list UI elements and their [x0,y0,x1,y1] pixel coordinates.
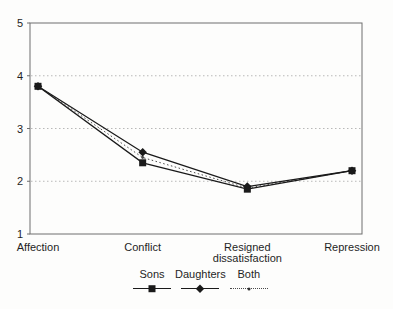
legend-item-both: Both [229,269,269,294]
y-tick-label: 2 [17,175,23,187]
legend-item-sons: Sons [132,269,172,294]
x-tick-label: Conflict [124,241,161,253]
square-marker [35,83,42,90]
legend-label-sons: Sons [139,269,164,280]
dot-marker [141,156,144,159]
square-marker [139,159,146,166]
line-chart-figure: 12345AffectionConflictResigneddissatisfa… [0,0,393,309]
series-line-daughters [38,86,352,186]
square-marker [349,167,356,174]
y-tick-label: 5 [17,17,23,29]
series-line-sons [38,86,352,189]
square-marker-icon [149,285,156,292]
series-line-both [38,86,352,188]
y-tick-label: 3 [17,123,23,135]
legend-item-daughters: Daughters [175,269,226,294]
y-tick-label: 1 [17,228,23,240]
legend-label-both: Both [237,269,260,280]
x-tick-label: Repression [324,241,380,253]
square-marker [244,186,251,193]
dot-marker-icon [247,287,250,290]
sons-square-marker-icon [133,283,171,294]
chart-canvas: 12345AffectionConflictResigneddissatisfa… [0,0,393,309]
both-dotted-line-icon [230,283,268,294]
chart-legend: Sons Daughters Both [132,269,269,294]
x-tick-label: Resigneddissatisfaction [213,241,282,264]
legend-label-daughters: Daughters [175,269,226,280]
diamond-marker-icon [196,284,204,292]
daughters-diamond-marker-icon [181,283,219,294]
x-tick-label: Affection [17,241,60,253]
diamond-marker [138,148,146,156]
y-tick-label: 4 [17,70,23,82]
